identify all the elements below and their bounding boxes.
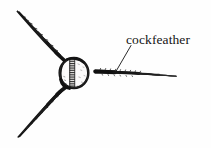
figure-root: cockfeather [0,0,211,148]
nock-circle [59,58,89,89]
figure-background [0,0,211,148]
figure-canvas [0,0,211,148]
